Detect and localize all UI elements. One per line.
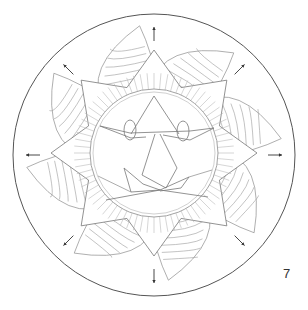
arrow-left-icon: [26, 153, 40, 156]
arrow-down-left-icon: [63, 236, 73, 246]
page-number: 7: [283, 266, 290, 281]
face-ring-outer: [90, 89, 218, 217]
arrow-up-right-icon: [235, 64, 245, 74]
arrow-up-left-icon: [63, 64, 73, 74]
sun-mandala-artwork: [0, 0, 308, 310]
arrow-down-right-icon: [235, 236, 245, 246]
arrow-down-icon: [152, 269, 155, 283]
arrow-up-icon: [152, 27, 155, 41]
sun-face: [90, 89, 218, 217]
arrow-right-icon: [268, 153, 282, 156]
